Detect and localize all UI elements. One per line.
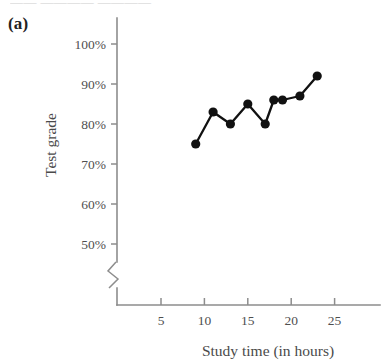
data-point: 11h, 83% xyxy=(209,107,218,116)
x-tick-label: 10 xyxy=(198,313,212,328)
y-tick-label: 70% xyxy=(81,157,106,172)
y-tick-label: 90% xyxy=(81,77,106,92)
y-axis-ticks: 50%60%70%80%90%100% xyxy=(75,37,118,252)
y-axis-label: Test grade xyxy=(42,113,59,177)
data-series: 9h, 75%11h, 83%13h, 80%15h, 85%17h, 80%1… xyxy=(191,71,322,148)
scatter-chart: 50%60%70%80%90%100% 510152025 9h, 75%11h… xyxy=(0,0,387,363)
y-tick-label: 60% xyxy=(81,197,106,212)
x-axis-label: Study time (in hours) xyxy=(202,342,334,360)
y-axis-break-icon xyxy=(108,262,118,288)
x-tick-label: 20 xyxy=(284,313,298,328)
series-points: 9h, 75%11h, 83%13h, 80%15h, 85%17h, 80%1… xyxy=(191,71,322,148)
x-tick-label: 5 xyxy=(158,313,165,328)
data-point: 17h, 80% xyxy=(261,119,270,128)
x-axis-ticks: 510152025 xyxy=(158,298,342,328)
data-point: 19h, 86% xyxy=(278,95,287,104)
y-tick-label: 100% xyxy=(75,37,107,52)
data-point: 18h, 86% xyxy=(269,95,278,104)
x-tick-label: 15 xyxy=(241,313,255,328)
data-point: 13h, 80% xyxy=(226,119,235,128)
data-point: 9h, 75% xyxy=(191,139,200,148)
y-tick-label: 50% xyxy=(81,237,106,252)
data-point: 23h, 92% xyxy=(313,71,322,80)
y-tick-label: 80% xyxy=(81,117,106,132)
data-point: 15h, 85% xyxy=(243,99,252,108)
data-point: 21h, 87% xyxy=(295,91,304,100)
figure-panel: —— ———— ———— (a) 50%60%70%80%90%100% 510… xyxy=(0,0,387,363)
x-tick-label: 25 xyxy=(328,313,342,328)
